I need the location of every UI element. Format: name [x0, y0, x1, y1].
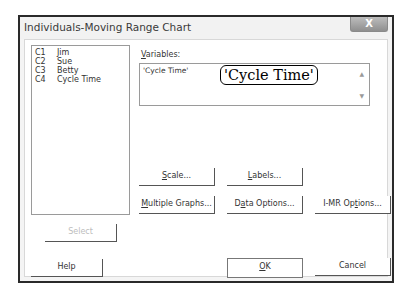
column-id: C4 — [35, 75, 57, 84]
cancel-button[interactable]: Cancel — [315, 258, 391, 276]
scroll-down-arrow-icon[interactable]: ▼ — [359, 92, 364, 99]
list-item[interactable]: C3Betty — [35, 66, 126, 75]
dialog-body: C1Jim C2Sue C3Betty C4Cycle Time Variabl… — [24, 39, 388, 277]
select-button[interactable]: Select — [45, 224, 117, 242]
close-icon: X — [365, 18, 373, 29]
column-list[interactable]: C1Jim C2Sue C3Betty C4Cycle Time — [31, 45, 130, 215]
scale-button[interactable]: Scale... — [139, 168, 215, 186]
column-id: C2 — [35, 57, 57, 66]
column-name: Betty — [57, 66, 78, 75]
data-options-button[interactable]: Data Options... — [227, 196, 303, 214]
list-item[interactable]: C4Cycle Time — [35, 75, 126, 84]
title-bar: Individuals-Moving Range Chart X — [20, 17, 392, 39]
dialog-title: Individuals-Moving Range Chart — [24, 21, 191, 33]
labels-button[interactable]: Labels... — [227, 168, 303, 186]
variables-label: Variables: — [141, 50, 180, 59]
help-button[interactable]: Help — [31, 259, 103, 277]
close-button[interactable]: X — [350, 17, 388, 32]
variables-input[interactable]: 'Cycle Time' 'Cycle Time' ▲ ▼ — [139, 63, 370, 106]
scroll-up-arrow-icon[interactable]: ▲ — [359, 70, 364, 77]
column-id: C3 — [35, 66, 57, 75]
column-name: Sue — [57, 57, 72, 66]
list-item[interactable]: C1Jim — [35, 48, 126, 57]
ok-button[interactable]: OK — [227, 258, 303, 278]
imr-chart-dialog: Individuals-Moving Range Chart X C1Jim C… — [18, 15, 394, 283]
callout-annotation: 'Cycle Time' — [220, 65, 318, 85]
column-id: C1 — [35, 48, 57, 57]
multiple-graphs-button[interactable]: Multiple Graphs... — [139, 196, 215, 214]
column-name: Cycle Time — [57, 75, 101, 84]
variables-value: 'Cycle Time' — [143, 66, 188, 75]
column-name: Jim — [57, 48, 69, 57]
list-item[interactable]: C2Sue — [35, 57, 126, 66]
imr-options-button[interactable]: I-MR Options... — [315, 196, 391, 214]
